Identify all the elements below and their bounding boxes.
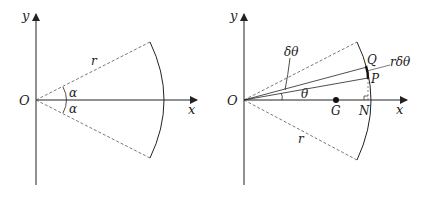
left-alpha-upper-label: α <box>69 86 77 100</box>
left-origin-label: O <box>19 93 30 108</box>
left-figure: y x O r α α <box>19 8 197 185</box>
right-radius-label: r <box>298 132 305 146</box>
foot-n-label: N <box>358 104 370 118</box>
right-figure: y x O r δθ θ Q P rδθ G N <box>227 8 411 185</box>
right-y-label: y <box>229 8 238 23</box>
arc-length-label: rδθ <box>390 55 411 69</box>
left-upper-radius <box>36 42 150 100</box>
left-x-label: x <box>188 102 196 117</box>
right-x-label: x <box>396 102 404 117</box>
delta-theta-pointer <box>285 58 290 90</box>
centroid-point <box>333 97 339 103</box>
left-alpha-lower-label: α <box>69 102 77 116</box>
point-q-label: Q <box>367 53 377 67</box>
right-origin-label: O <box>227 93 238 108</box>
element-arc-pq <box>366 66 368 79</box>
centroid-label: G <box>331 104 341 118</box>
diagram-canvas: y x O r α α y x O r δθ θ Q P rδθ G N <box>0 0 426 200</box>
right-angle-mark <box>364 96 368 100</box>
left-y-label: y <box>21 8 30 23</box>
left-lower-radius <box>36 100 150 158</box>
left-radius-label: r <box>91 54 98 68</box>
theta-angle-arc <box>281 93 282 100</box>
theta-label: θ <box>301 87 309 101</box>
point-p-label: P <box>370 72 380 86</box>
delta-theta-label: δθ <box>284 45 299 59</box>
